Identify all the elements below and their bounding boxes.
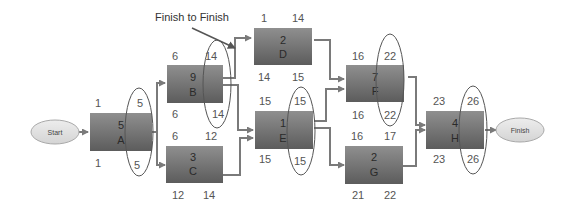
activity-d: 2 D 1 14 14 15 — [254, 12, 312, 83]
activity-d-lf: 15 — [292, 71, 304, 83]
finish-label: Finish — [511, 127, 530, 134]
activity-e-es: 15 — [259, 95, 271, 107]
edge-f-h — [408, 77, 425, 125]
activity-g-id: G — [370, 166, 379, 178]
activity-b-ef: 14 — [205, 50, 217, 62]
activity-h-duration: 4 — [452, 117, 458, 129]
activity-h-ls: 23 — [433, 153, 445, 165]
activity-e-lf: 15 — [294, 155, 306, 167]
finish-to-finish-annotation: Finish to Finish — [155, 11, 235, 48]
activity-a: 5 A 1 5 1 5 — [90, 97, 152, 171]
activity-b-id: B — [189, 86, 196, 98]
activity-f-lf: 22 — [384, 109, 396, 121]
activity-c-es: 6 — [172, 130, 178, 142]
network-diagram: Start Finish 5 A 1 5 1 5 9 B 6 14 6 14 3… — [0, 0, 574, 210]
edge-e-g — [314, 128, 344, 165]
edge-b-e — [223, 85, 253, 130]
activity-a-ls: 1 — [95, 157, 101, 169]
activity-a-es: 1 — [95, 97, 101, 109]
activity-c-ls: 12 — [172, 189, 184, 201]
activity-g: 2 G 16 17 21 22 — [345, 130, 403, 201]
activity-f-id: F — [372, 85, 379, 97]
activity-f-es: 16 — [352, 50, 364, 62]
activity-c-duration: 3 — [190, 151, 196, 163]
activity-c-lf: 14 — [203, 189, 215, 201]
activity-e-duration: 1 — [280, 117, 286, 129]
edge-d-f — [314, 40, 344, 79]
activity-a-lf: 5 — [134, 159, 140, 171]
activity-f-ls: 16 — [352, 109, 364, 121]
finish-node: Finish — [496, 118, 544, 142]
activity-f: 7 F 16 22 16 22 — [346, 50, 404, 121]
activity-g-ls: 21 — [352, 189, 364, 201]
annotation-arrow-icon — [192, 28, 235, 48]
activity-e-ef: 15 — [294, 95, 306, 107]
edge-a-b — [152, 83, 165, 132]
start-node: Start — [31, 120, 79, 144]
activity-g-lf: 22 — [384, 189, 396, 201]
activity-a-duration: 5 — [118, 119, 124, 131]
edge-c-e — [223, 138, 253, 175]
activity-a-ef: 5 — [137, 97, 143, 109]
activity-h-ef: 26 — [467, 95, 479, 107]
activity-g-es: 16 — [351, 130, 363, 142]
edge-e-f — [314, 89, 344, 121]
activity-e-id: E — [279, 132, 286, 144]
activity-h-id: H — [451, 132, 459, 144]
activity-c-ef: 12 — [205, 130, 217, 142]
activity-e-ls: 15 — [259, 153, 271, 165]
annotation-label: Finish to Finish — [155, 11, 229, 23]
activity-d-id: D — [279, 48, 287, 60]
activity-b-lf: 14 — [212, 108, 224, 120]
activity-d-ef: 14 — [292, 12, 304, 24]
activity-c: 3 C 6 12 12 14 — [166, 130, 223, 201]
activity-b-duration: 9 — [190, 71, 196, 83]
activity-a-id: A — [117, 134, 125, 146]
activity-b-es: 6 — [172, 50, 178, 62]
activity-d-duration: 2 — [280, 34, 286, 46]
activity-d-ls: 14 — [258, 71, 270, 83]
activity-h-es: 23 — [433, 95, 445, 107]
activity-e: 1 E 15 15 15 15 — [255, 95, 313, 167]
activity-h-lf: 26 — [467, 153, 479, 165]
activity-g-ef: 17 — [384, 130, 396, 142]
activity-g-duration: 2 — [371, 151, 377, 163]
activity-f-ef: 22 — [384, 50, 396, 62]
activity-d-es: 1 — [261, 12, 267, 24]
activity-h: 4 H 23 26 23 26 — [426, 95, 484, 165]
activity-b: 9 B 6 14 6 14 — [167, 50, 224, 120]
activity-b-ls: 6 — [172, 108, 178, 120]
edge-g-h — [403, 130, 425, 166]
activity-c-id: C — [189, 165, 197, 177]
activity-f-duration: 7 — [372, 71, 378, 83]
start-label: Start — [48, 129, 63, 136]
edge-a-c — [157, 132, 165, 165]
